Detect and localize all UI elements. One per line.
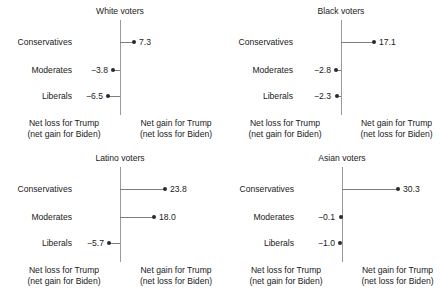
value-label: −3.8 bbox=[91, 64, 108, 76]
axis-note-right-line1: Net gain for Trump bbox=[362, 265, 433, 275]
value-label: −0.1 bbox=[318, 211, 335, 223]
value-segment bbox=[342, 189, 398, 190]
chart-row: Liberals −2.3 bbox=[220, 90, 440, 102]
value-label: 23.8 bbox=[170, 183, 187, 195]
category-label: Liberals bbox=[42, 237, 72, 249]
chart-row: Moderates −3.8 bbox=[0, 64, 220, 76]
axis-note-left-line1: Net loss for Trump bbox=[251, 265, 321, 275]
chart-row: Moderates −0.1 bbox=[220, 211, 440, 223]
chart-row: Liberals −5.7 bbox=[0, 237, 220, 249]
value-segment bbox=[120, 189, 165, 190]
category-label: Conservatives bbox=[240, 183, 294, 195]
value-segment bbox=[120, 217, 154, 218]
panel-title: Black voters bbox=[241, 6, 440, 16]
category-label: Moderates bbox=[31, 211, 72, 223]
panel-title: White voters bbox=[20, 6, 220, 16]
value-marker bbox=[107, 241, 111, 245]
value-marker bbox=[339, 215, 343, 219]
value-label: −5.7 bbox=[87, 237, 104, 249]
value-marker bbox=[334, 68, 338, 72]
value-segment bbox=[341, 42, 374, 43]
axis-note-right: Net gain for Trump (net loss for Biden) bbox=[122, 265, 230, 287]
value-marker bbox=[106, 94, 110, 98]
axis-note-right-line1: Net gain for Trump bbox=[361, 118, 432, 128]
axis-note-left-line2: (net gain for Biden) bbox=[231, 129, 339, 140]
value-marker bbox=[152, 215, 156, 219]
value-label: 18.0 bbox=[159, 211, 176, 223]
axis-note-right: Net gain for Trump (net loss for Biden) bbox=[122, 118, 230, 140]
panel-title: Asian voters bbox=[242, 153, 440, 163]
category-label: Conservatives bbox=[239, 36, 293, 48]
axis-note-left: Net loss for Trump (net gain for Biden) bbox=[231, 118, 339, 140]
axis-note-left-line2: (net gain for Biden) bbox=[10, 276, 118, 287]
small-multiples-chart: White voters Conservatives 7.3 Moderates… bbox=[0, 0, 440, 293]
category-label: Conservatives bbox=[18, 36, 72, 48]
value-label: 17.1 bbox=[379, 36, 396, 48]
axis-note-right-line2: (net loss for Biden) bbox=[343, 129, 440, 140]
axis-note-left: Net loss for Trump (net gain for Biden) bbox=[10, 265, 118, 287]
category-label: Liberals bbox=[264, 237, 294, 249]
panel-title: Latino voters bbox=[20, 153, 220, 163]
value-marker bbox=[372, 40, 376, 44]
chart-row: Conservatives 23.8 bbox=[0, 183, 220, 195]
axis-note-left-line1: Net loss for Trump bbox=[29, 265, 99, 275]
axis-note-left: Net loss for Trump (net gain for Biden) bbox=[10, 118, 118, 140]
value-marker bbox=[396, 187, 400, 191]
value-label: 7.3 bbox=[139, 36, 151, 48]
axis-note-left-line1: Net loss for Trump bbox=[29, 118, 99, 128]
category-label: Moderates bbox=[31, 64, 72, 76]
axis-note-right-line1: Net gain for Trump bbox=[140, 265, 211, 275]
value-marker bbox=[163, 187, 167, 191]
value-label: −2.8 bbox=[314, 64, 331, 76]
value-marker bbox=[335, 94, 339, 98]
chart-row: Liberals −1.0 bbox=[220, 237, 440, 249]
axis-note-right-line2: (net loss for Biden) bbox=[344, 276, 440, 287]
axis-note-right-line1: Net gain for Trump bbox=[140, 118, 211, 128]
category-label: Liberals bbox=[263, 90, 293, 102]
chart-row: Liberals −6.5 bbox=[0, 90, 220, 102]
value-label: −6.5 bbox=[86, 90, 103, 102]
value-label: 30.3 bbox=[403, 183, 420, 195]
category-label: Moderates bbox=[252, 64, 293, 76]
category-label: Liberals bbox=[42, 90, 72, 102]
category-label: Moderates bbox=[253, 211, 294, 223]
axis-note-left-line2: (net gain for Biden) bbox=[10, 129, 118, 140]
chart-row: Conservatives 30.3 bbox=[220, 183, 440, 195]
category-label: Conservatives bbox=[18, 183, 72, 195]
axis-note-right-line2: (net loss for Biden) bbox=[122, 129, 230, 140]
chart-row: Conservatives 17.1 bbox=[220, 36, 440, 48]
panel-white-voters: White voters Conservatives 7.3 Moderates… bbox=[0, 0, 220, 146]
panel-asian-voters: Asian voters Conservatives 30.3 Moderate… bbox=[220, 147, 440, 293]
chart-row: Moderates 18.0 bbox=[0, 211, 220, 223]
value-label: −2.3 bbox=[314, 90, 331, 102]
panel-black-voters: Black voters Conservatives 17.1 Moderate… bbox=[220, 0, 440, 146]
axis-note-right: Net gain for Trump (net loss for Biden) bbox=[343, 118, 440, 140]
chart-row: Moderates −2.8 bbox=[220, 64, 440, 76]
axis-note-left-line2: (net gain for Biden) bbox=[232, 276, 340, 287]
panel-latino-voters: Latino voters Conservatives 23.8 Moderat… bbox=[0, 147, 220, 293]
chart-row: Conservatives 7.3 bbox=[0, 36, 220, 48]
value-label: −1.0 bbox=[318, 237, 335, 249]
value-marker bbox=[132, 40, 136, 44]
axis-note-left: Net loss for Trump (net gain for Biden) bbox=[232, 265, 340, 287]
value-marker bbox=[111, 68, 115, 72]
axis-note-right-line2: (net loss for Biden) bbox=[122, 276, 230, 287]
value-marker bbox=[338, 241, 342, 245]
axis-note-left-line1: Net loss for Trump bbox=[250, 118, 320, 128]
axis-note-right: Net gain for Trump (net loss for Biden) bbox=[344, 265, 440, 287]
